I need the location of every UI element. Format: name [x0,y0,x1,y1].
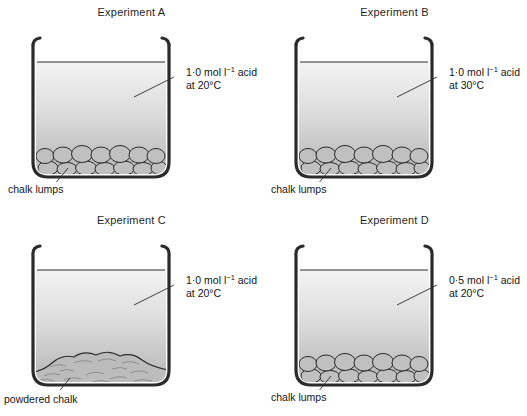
beaker-diagram [289,230,449,390]
experiment-figure: Experiment A [0,0,527,416]
panel-experiment-a: Experiment A [0,0,263,208]
acid-label: 1·0 mol l−1 acid at 30°C [449,66,520,92]
acid-label-line1: 1·0 mol l−1 acid [186,274,257,287]
acid-label-line2: at 20°C [186,79,257,92]
acid-label-line2: at 20°C [449,287,520,300]
acid-label-line1: 1·0 mol l−1 acid [186,66,257,79]
acid-label: 1·0 mol l−1 acid at 20°C [186,274,257,300]
panel-experiment-b: Experiment B [263,0,526,208]
panel-title: Experiment D [263,214,526,226]
beaker-diagram [289,22,449,182]
beaker-diagram [26,22,186,182]
solid-label: powdered chalk [4,393,78,405]
panel-title: Experiment B [263,6,526,18]
solid-label: chalk lumps [271,183,326,195]
panel-title: Experiment C [0,214,263,226]
acid-label-line2: at 20°C [186,287,257,300]
acid-label: 1·0 mol l−1 acid at 20°C [186,66,257,92]
acid-label-line1: 0·5 mol l−1 acid [449,274,520,287]
solid-label: chalk lumps [8,183,63,195]
solid-label: chalk lumps [271,391,326,403]
panel-title: Experiment A [0,6,263,18]
acid-label: 0·5 mol l−1 acid at 20°C [449,274,520,300]
panel-experiment-d: Experiment D [263,208,526,416]
beaker-diagram [26,230,186,390]
acid-label-line1: 1·0 mol l−1 acid [449,66,520,79]
acid-label-line2: at 30°C [449,79,520,92]
panel-experiment-c: Experiment C [0,208,263,416]
